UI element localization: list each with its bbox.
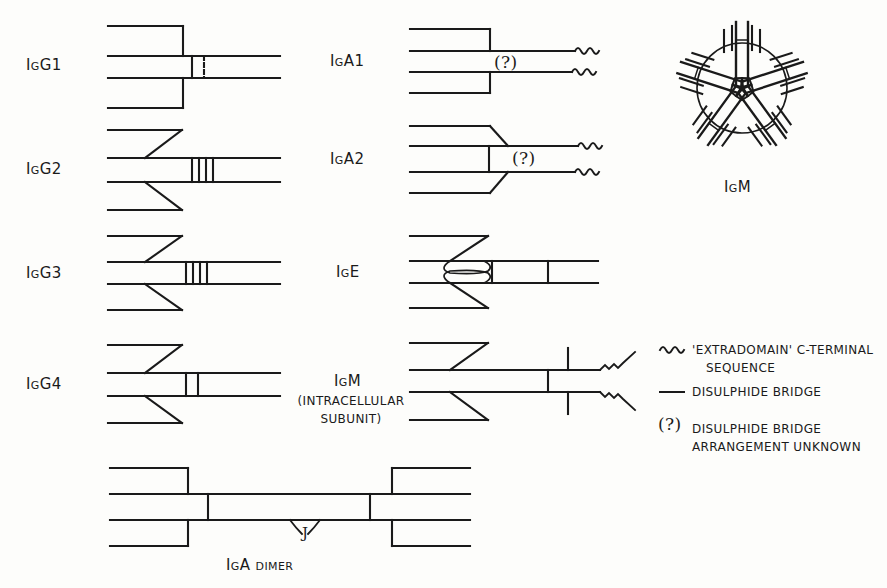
molecule-ige-lines [410,236,598,308]
legend-extradomain-line1: 'EXTRADOMAIN' C-TERMINAL [692,343,873,358]
legend-symbols [660,347,684,392]
marker-iga1-unknown: (?) [494,52,518,73]
label-ige: IgE [336,263,360,282]
legend-unknown-symbol: (?) [658,414,682,435]
label-igg1: IgG1 [26,56,62,75]
label-iga2: IgA2 [330,150,364,169]
molecule-igg1-lines [108,26,280,108]
marker-iga2-unknown: (?) [512,148,536,169]
label-igg3: IgG3 [26,264,62,283]
legend-unknown-line2: ARRANGEMENT UNKNOWN [692,440,861,455]
molecule-igm-subunit-lines [410,343,635,420]
label-igg2: IgG2 [26,160,62,179]
legend-disulphide-bridge: DISULPHIDE BRIDGE [692,385,821,400]
diagram-lines [0,0,887,588]
molecule-iga-dimer-lines [110,468,470,546]
molecule-igg3-lines [108,236,280,310]
label-igm-subunit-note-line2: SUBUNIT) [286,412,416,427]
molecule-iga2-lines [410,126,602,193]
legend-unknown-line1: DISULPHIDE BRIDGE [692,422,821,437]
legend-extradomain-line2: SEQUENCE [706,361,775,376]
label-j-chain: J [302,524,308,543]
label-igg4: IgG4 [26,375,62,394]
molecule-igg4-lines [108,345,280,423]
figure-canvas: IgG1 IgG2 IgG3 IgG4 IgA1 IgA2 IgE IgM (I… [0,0,887,588]
molecule-igm-pentamer-lines [674,22,811,152]
label-igm-subunit-note-line1: (INTRACELLULAR [286,394,416,409]
label-igm-subunit: IgM [334,372,361,391]
label-iga1: IgA1 [330,52,364,71]
label-igm-pentamer: IgM [724,178,751,197]
label-iga-dimer: IgA dimer [226,556,293,575]
molecule-igg2-lines [108,130,280,210]
